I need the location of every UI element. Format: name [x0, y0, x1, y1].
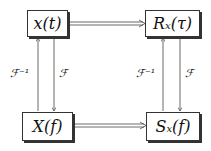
node-X-f: X(f)	[22, 112, 73, 141]
node-label: Sₓ(f)	[155, 117, 190, 136]
node-label: Rₓ(τ)	[153, 14, 192, 33]
node-sx-f: Sₓ(f)	[146, 112, 200, 141]
edge-label-right-forward: ℱ	[185, 67, 194, 80]
node-label: X(f)	[33, 117, 63, 136]
node-x-t: x(t)	[27, 10, 68, 37]
edge-label-left-inverse: ℱ⁻¹	[10, 67, 29, 80]
node-label: x(t)	[34, 14, 62, 33]
edge-label-left-forward: ℱ	[59, 67, 68, 80]
edge-label-right-inverse: ℱ⁻¹	[136, 67, 155, 80]
node-rx-tau: Rₓ(τ)	[145, 10, 200, 37]
